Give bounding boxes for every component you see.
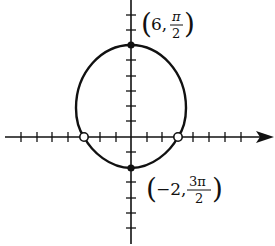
- point-left-intercept: [80, 133, 88, 141]
- svg-text:−2,: −2,: [156, 179, 186, 199]
- label-top: ( 6, π 2 ): [141, 7, 195, 41]
- svg-text:3π: 3π: [189, 174, 206, 189]
- svg-text:π: π: [171, 9, 181, 24]
- point-right-intercept: [174, 133, 182, 141]
- polar-graph: ( 6, π 2 ) ( −2, 3π 2 ): [0, 0, 275, 246]
- point-bottom: [127, 164, 134, 171]
- svg-text:): ): [212, 172, 223, 205]
- svg-text:): ): [184, 7, 195, 40]
- point-top: [127, 41, 134, 48]
- svg-text:2: 2: [172, 26, 180, 41]
- label-bottom: ( −2, 3π 2 ): [146, 172, 223, 206]
- svg-text:6,: 6,: [151, 14, 167, 34]
- svg-text:2: 2: [195, 191, 203, 206]
